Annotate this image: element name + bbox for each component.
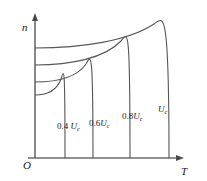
curve-0-4-uc: [35, 74, 65, 158]
x-axis-arrow-icon: [176, 155, 184, 161]
curve-0-8-uc: [35, 37, 130, 159]
curve-uc: [35, 20, 169, 158]
x-axis-label: T: [181, 166, 187, 177]
curve-label-0-8-uc: 0.8Uc: [122, 112, 143, 121]
curve-label-symbol: U: [158, 104, 165, 114]
curve-label-0-4-uc: 0.4 Uc: [57, 122, 80, 131]
curve-label-symbol: U: [133, 111, 140, 121]
curve-label-subscript: c: [77, 125, 80, 132]
curve-label-0-6-uc: 0.6Uc: [89, 119, 110, 128]
figure-container: n T O 0.4 Uc 0.6Uc 0.8Uc Uc: [0, 0, 207, 181]
curve-label-prefix: 0.6: [89, 118, 100, 128]
origin-label: O: [23, 160, 31, 171]
curve-label-subscript: c: [165, 108, 168, 115]
plot-area: [0, 0, 207, 181]
curve-label-symbol: U: [100, 118, 107, 128]
curve-label-subscript: c: [140, 115, 143, 122]
curve-label-uc: Uc: [158, 105, 167, 114]
curve-label-prefix: 0.4: [57, 121, 71, 131]
y-axis-arrow-icon: [32, 13, 38, 21]
curve-0-6-uc: [35, 59, 93, 158]
y-axis-label: n: [22, 22, 28, 33]
curve-label-subscript: c: [107, 122, 110, 129]
curve-label-prefix: 0.8: [122, 111, 133, 121]
